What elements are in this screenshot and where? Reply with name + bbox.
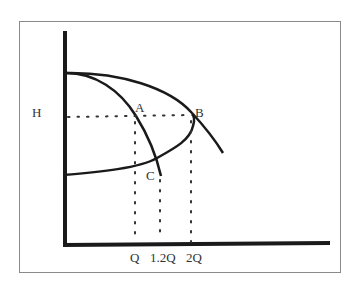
y-axis-label: H bbox=[32, 105, 41, 120]
pump-curve-diagram: H A B C Q 1.2Q 2Q bbox=[0, 0, 361, 282]
point-c-label: C bbox=[146, 168, 155, 183]
point-b-label: B bbox=[195, 105, 204, 120]
head-guide-line bbox=[68, 115, 190, 117]
single-pump-curve bbox=[66, 73, 161, 176]
x-tick-q: Q bbox=[130, 250, 140, 265]
point-a-label: A bbox=[135, 100, 145, 115]
x-tick-1-2q: 1.2Q bbox=[150, 250, 176, 265]
system-curve bbox=[63, 114, 194, 175]
x-tick-2q: 2Q bbox=[186, 250, 203, 265]
x-axis bbox=[63, 243, 330, 245]
